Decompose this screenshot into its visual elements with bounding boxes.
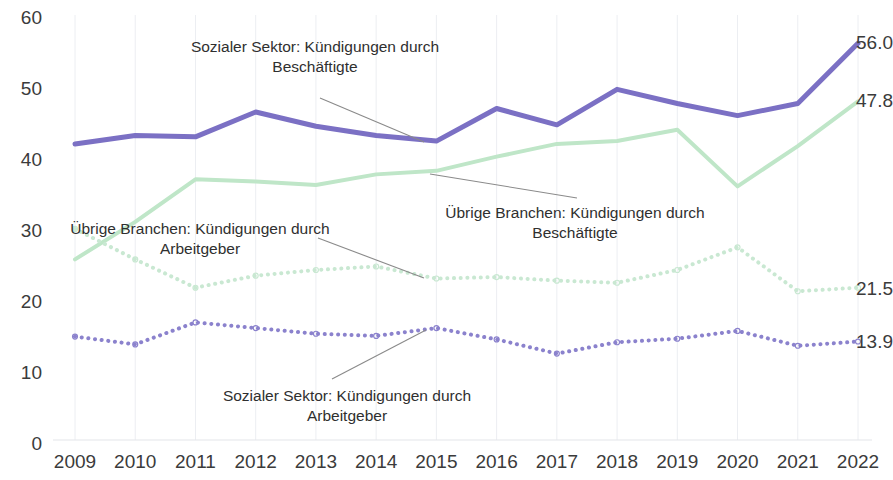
x-axis-tick-2012: 2012: [226, 452, 286, 471]
x-axis-tick-2010: 2010: [105, 452, 165, 471]
end-label-uebrige-beschaeftigte: 47.8: [856, 91, 893, 110]
x-axis-tick-2022: 2022: [828, 452, 888, 471]
annotation-sozialer-sektor-arbeitgeber: Sozialer Sektor: Kündigungen durch Arbei…: [182, 386, 512, 426]
series-line-3: [75, 322, 858, 353]
annotation-uebrige-branchen-arbeitgeber: Übrige Branchen: Kündigungen durch Arbei…: [40, 219, 360, 259]
end-label-sozialer-beschaeftigte: 56.0: [856, 33, 893, 52]
series-layer: [73, 43, 861, 356]
x-axis-tick-2021: 2021: [768, 452, 828, 471]
leader-line-1: [430, 174, 577, 198]
end-label-sozialer-arbeitgeber: 13.9: [856, 332, 893, 351]
annotation-uebrige-branchen-beschaeftigte: Übrige Branchen: Kündigungen durch Besch…: [410, 203, 740, 243]
x-axis-tick-2019: 2019: [647, 452, 707, 471]
x-axis-tick-2015: 2015: [406, 452, 466, 471]
x-axis-tick-2020: 2020: [708, 452, 768, 471]
x-axis-tick-2009: 2009: [45, 452, 105, 471]
end-label-uebrige-arbeitgeber: 21.5: [856, 279, 893, 298]
x-axis-tick-2011: 2011: [165, 452, 225, 471]
x-axis-tick-2013: 2013: [286, 452, 346, 471]
line-chart: 60 50 40 30 20 10 0 20092010201120122013…: [0, 0, 893, 480]
x-axis-tick-2016: 2016: [467, 452, 527, 471]
x-axis-tick-2014: 2014: [346, 452, 406, 471]
annotation-sozialer-sektor-beschaeftigte: Sozialer Sektor: Kündigungen durch Besch…: [150, 37, 480, 77]
x-axis-tick-2018: 2018: [587, 452, 647, 471]
x-axis-tick-2017: 2017: [527, 452, 587, 471]
